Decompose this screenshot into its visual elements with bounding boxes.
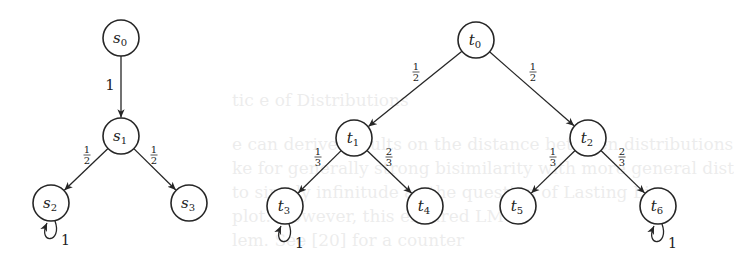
state-node-t5: t5 bbox=[500, 188, 536, 224]
edge-probability-label: 1 bbox=[105, 76, 115, 94]
loop-probability-label: 1 bbox=[668, 235, 677, 251]
fraction-denominator: 3 bbox=[386, 157, 392, 168]
edge-probability-fraction: 12 bbox=[151, 144, 158, 166]
self-loop-s2: 1 bbox=[45, 221, 70, 248]
state-node-t0: t0 bbox=[458, 22, 494, 58]
fraction-denominator: 2 bbox=[151, 155, 157, 166]
edge-t0-t1: 12 bbox=[368, 51, 462, 126]
fraction-numerator: 1 bbox=[413, 61, 419, 72]
self-loop-t6: 1 bbox=[652, 224, 677, 251]
loop-probability-label: 1 bbox=[295, 235, 304, 251]
loop-probability-label: 1 bbox=[61, 232, 70, 248]
fraction-denominator: 2 bbox=[530, 72, 536, 83]
edge-probability-fraction: 23 bbox=[619, 146, 626, 168]
state-node-t2: t2 bbox=[570, 120, 606, 156]
state-node-s0: s0 bbox=[103, 20, 139, 56]
state-node-t4: t4 bbox=[407, 188, 443, 224]
fraction-denominator: 2 bbox=[413, 72, 419, 83]
fraction-numerator: 1 bbox=[84, 144, 90, 155]
edge-probability-fraction: 23 bbox=[386, 146, 393, 168]
fraction-numerator: 1 bbox=[530, 61, 536, 72]
fraction-numerator: 1 bbox=[151, 144, 157, 155]
state-node-t1: t1 bbox=[336, 120, 372, 156]
nodes: s0s1s2s3t0t1t2t3t4t5t6 bbox=[33, 20, 676, 224]
fraction-denominator: 2 bbox=[84, 155, 90, 166]
edge-t1-t3: 13 bbox=[298, 146, 341, 193]
edge-probability-fraction: 12 bbox=[413, 61, 420, 83]
fraction-numerator: 1 bbox=[315, 146, 321, 157]
fraction-denominator: 3 bbox=[315, 157, 321, 168]
edge-s0-s1: 1 bbox=[105, 56, 121, 118]
edge-t2-t5: 13 bbox=[531, 146, 575, 193]
edge-s1-s3: 12 bbox=[134, 144, 176, 190]
fraction-numerator: 2 bbox=[619, 146, 625, 157]
edge-t1-t4: 23 bbox=[367, 146, 412, 193]
edge-probability-fraction: 13 bbox=[550, 146, 557, 168]
state-node-s1: s1 bbox=[103, 118, 139, 154]
edge-t2-t6: 23 bbox=[601, 146, 645, 193]
self-loop-t3: 1 bbox=[279, 224, 304, 251]
loop-arrow-icon bbox=[279, 224, 291, 242]
loop-arrow-icon bbox=[652, 224, 664, 242]
fraction-denominator: 3 bbox=[550, 157, 556, 168]
state-node-s3: s3 bbox=[171, 185, 207, 221]
state-node-t3: t3 bbox=[267, 188, 303, 224]
fraction-numerator: 2 bbox=[386, 146, 392, 157]
edge-t0-t2: 12 bbox=[490, 52, 575, 126]
fraction-numerator: 1 bbox=[550, 146, 556, 157]
state-node-t6: t6 bbox=[640, 188, 676, 224]
edge-s1-s2: 12 bbox=[64, 144, 108, 190]
fraction-denominator: 3 bbox=[619, 157, 625, 168]
edge-probability-fraction: 12 bbox=[530, 61, 537, 83]
edge-probability-fraction: 13 bbox=[315, 146, 322, 168]
edge-probability-fraction: 12 bbox=[84, 144, 91, 166]
state-node-s2: s2 bbox=[33, 185, 69, 221]
loop-arrow-icon bbox=[45, 221, 57, 239]
